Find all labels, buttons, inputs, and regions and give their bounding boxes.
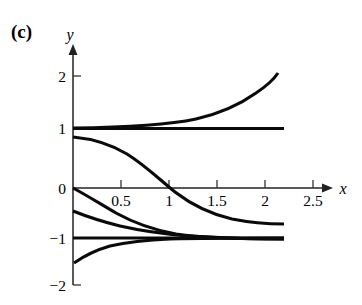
y-tick-label-neg1: −1 xyxy=(50,230,67,247)
y-axis-label: y xyxy=(64,26,74,44)
axes-group xyxy=(69,44,334,285)
y-tick-label-1: 1 xyxy=(58,120,66,137)
solution-curves-plot: 2 1 0 −1 −2 0.5 1 1.5 2 2.5 x y xyxy=(0,0,362,305)
y-axis-ticks xyxy=(73,76,81,285)
x-tick-label-2: 2 xyxy=(261,192,269,209)
x-tick-label-1: 1 xyxy=(165,192,173,209)
x-tick-label-2.5: 2.5 xyxy=(303,192,323,209)
x-axis-ticks xyxy=(121,180,313,188)
x-tick-label-1.5: 1.5 xyxy=(207,192,227,209)
y-tick-labels: 2 1 0 −1 −2 xyxy=(50,68,67,294)
curve-above-one xyxy=(73,73,278,128)
curve-from-minus-1.5 xyxy=(74,238,284,263)
x-axis-arrowhead xyxy=(322,184,333,193)
x-tick-label-0.5: 0.5 xyxy=(111,192,131,209)
y-tick-label-neg2: −2 xyxy=(50,277,67,294)
y-tick-label-2: 2 xyxy=(58,68,66,85)
solution-curves xyxy=(73,73,284,263)
figure-panel-c: (c) 2 1 0 −1 xyxy=(0,0,362,305)
x-axis-label: x xyxy=(338,180,346,197)
curve-from-minus-0.45 xyxy=(73,211,284,239)
y-axis-arrowhead xyxy=(69,44,78,55)
curve-from-0.8 xyxy=(73,137,284,224)
y-tick-label-0: 0 xyxy=(58,180,66,197)
x-tick-labels: 0.5 1 1.5 2 2.5 xyxy=(111,192,323,209)
